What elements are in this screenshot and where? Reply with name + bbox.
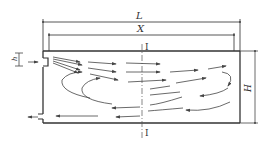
label-height: H (243, 84, 253, 93)
tank-outline (43, 51, 240, 123)
label-x: X (136, 23, 145, 34)
tank-diagram: L X h H (0, 0, 272, 150)
label-h: h (11, 56, 19, 61)
section-label-bottom: I (145, 128, 149, 138)
inlet (28, 58, 48, 66)
label-l: L (135, 10, 143, 21)
dimension-x (48, 33, 235, 51)
section-label-top: I (145, 42, 149, 52)
outlet (28, 114, 43, 119)
